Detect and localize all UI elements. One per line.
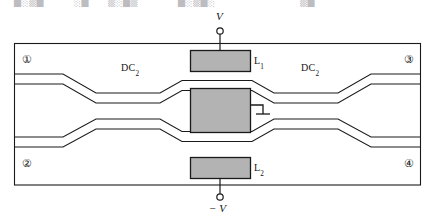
- port-label-4: ④: [404, 159, 414, 170]
- coupler-label-left: DC2: [121, 63, 139, 76]
- electrode-top-pad: [191, 51, 251, 72]
- electrode-top-label: L1: [254, 56, 264, 69]
- electrode-top-label-sub: 1: [260, 63, 264, 71]
- port-label-2: ②: [22, 159, 32, 170]
- port-label-1: ①: [22, 55, 32, 66]
- figure-root: █░▒█ ░█ ▒░█▒ █░▒█░ ▒█: [0, 0, 435, 221]
- coupler-label-right-main: DC: [301, 62, 315, 73]
- port-label-3: ③: [404, 55, 414, 66]
- device-diagram: [0, 0, 435, 221]
- electrode-bottom-pad: [191, 158, 251, 179]
- coupler-label-right: DC2: [301, 63, 319, 76]
- electrode-bottom-label: L2: [254, 163, 264, 176]
- electrode-center-pad: [191, 89, 251, 133]
- terminal-bottom-circle: [217, 194, 223, 200]
- coupler-label-left-main: DC: [121, 62, 135, 73]
- electrode-bottom-label-sub: 2: [260, 170, 264, 178]
- coupler-label-left-sub: 2: [135, 70, 139, 78]
- coupler-label-right-sub: 2: [315, 70, 319, 78]
- terminal-top-label: V: [216, 11, 223, 22]
- terminal-bottom-label: − V: [209, 203, 226, 214]
- terminal-top-circle: [217, 28, 223, 34]
